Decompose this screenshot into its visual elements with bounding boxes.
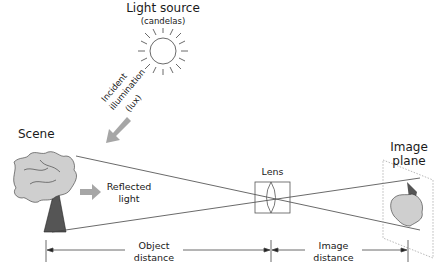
image-plane-label-line1: Image xyxy=(384,141,434,155)
light-source-unit: (candelas) xyxy=(123,17,203,27)
image-distance-line1: Image xyxy=(305,241,362,252)
reflected-label-line1: Reflected xyxy=(104,182,154,193)
diagram-canvas xyxy=(0,0,441,271)
light-source-title: Light source xyxy=(123,2,203,16)
lens-label: Lens xyxy=(255,167,290,178)
incident-arrow-icon xyxy=(106,117,131,143)
sun-icon xyxy=(138,28,188,75)
scene-label: Scene xyxy=(18,128,55,142)
object-distance-line1: Object xyxy=(125,241,183,252)
object-distance-line2: distance xyxy=(125,253,183,264)
image-plane-label-line2: plane xyxy=(384,155,434,169)
tree-scene-icon xyxy=(14,152,77,232)
reflected-arrow-icon xyxy=(80,184,101,200)
image-distance-line2: distance xyxy=(305,253,362,264)
reflected-label-line2: light xyxy=(104,194,154,205)
